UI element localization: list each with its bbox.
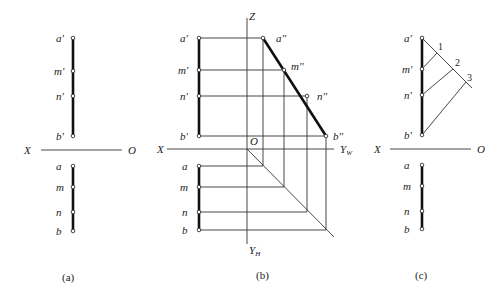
label-m: m bbox=[403, 180, 411, 192]
point-n-prime bbox=[71, 94, 75, 98]
point-b-prime bbox=[197, 134, 201, 138]
projection-diagram: X O a' m' n' b' a m n b (a) X O Z YW YH bbox=[0, 0, 504, 300]
point-m-prime bbox=[420, 67, 424, 71]
panel-b: X O Z YW YH a' m' n' b bbox=[156, 10, 353, 282]
label-n-prime: n' bbox=[56, 90, 65, 102]
label-m-prime: m' bbox=[178, 64, 189, 76]
point-n-double-prime bbox=[305, 94, 309, 98]
label-n: n bbox=[56, 206, 62, 218]
point-b-prime bbox=[71, 134, 75, 138]
label-b: b bbox=[182, 224, 188, 236]
point-b bbox=[420, 227, 424, 231]
label-b: b bbox=[404, 223, 410, 235]
point-m bbox=[71, 185, 75, 189]
point-a-double-prime bbox=[261, 36, 265, 40]
point-a-prime bbox=[420, 36, 424, 40]
label-a: a bbox=[404, 159, 410, 171]
point-b-prime bbox=[420, 133, 424, 137]
label-m: m bbox=[56, 181, 64, 193]
panel-c: X O 1 2 3 a' m' n' b' a m n b (c) bbox=[373, 32, 485, 282]
point-m-prime bbox=[197, 68, 201, 72]
label-n-prime: n' bbox=[404, 89, 413, 101]
caption-b: (b) bbox=[256, 269, 269, 282]
label-n-prime: n' bbox=[180, 90, 189, 102]
point-n bbox=[71, 210, 75, 214]
construction-line-1 bbox=[422, 53, 437, 69]
side-projection-line bbox=[263, 38, 326, 136]
axis-label-x: X bbox=[373, 143, 382, 155]
label-m-prime: m' bbox=[54, 65, 65, 77]
label-a-prime: a' bbox=[56, 32, 65, 44]
point-b-double-prime bbox=[324, 134, 328, 138]
axis-label-x: X bbox=[23, 144, 32, 156]
label-a: a bbox=[182, 160, 188, 172]
point-m bbox=[420, 184, 424, 188]
label-point-3: 3 bbox=[467, 72, 472, 83]
point-m-prime bbox=[71, 69, 75, 73]
label-b-prime: b' bbox=[404, 129, 413, 141]
caption-c: (c) bbox=[415, 269, 428, 282]
caption-a: (a) bbox=[62, 271, 75, 284]
label-b-double-prime: b'' bbox=[333, 130, 344, 142]
point-m-double-prime bbox=[282, 68, 286, 72]
label-a-double-prime: a'' bbox=[276, 32, 287, 44]
label-point-1: 1 bbox=[438, 41, 443, 52]
point-b bbox=[197, 228, 201, 232]
label-b-prime: b' bbox=[180, 130, 189, 142]
axis-label-o: O bbox=[128, 144, 136, 156]
point-a-prime bbox=[71, 36, 75, 40]
axis-label-o: O bbox=[250, 135, 258, 147]
axis-label-z: Z bbox=[249, 10, 256, 22]
point-n bbox=[197, 210, 201, 214]
label-n: n bbox=[404, 205, 410, 217]
label-m-prime: m' bbox=[402, 63, 413, 75]
point-a bbox=[197, 164, 201, 168]
label-b: b bbox=[56, 225, 62, 237]
point-m bbox=[197, 185, 201, 189]
auxiliary-line bbox=[422, 38, 472, 88]
point-a bbox=[420, 163, 424, 167]
panel-a: X O a' m' n' b' a m n b (a) bbox=[23, 32, 136, 284]
axis-label-yh: YH bbox=[249, 244, 261, 258]
point-n-prime bbox=[197, 94, 201, 98]
point-n bbox=[420, 209, 424, 213]
label-point-2: 2 bbox=[455, 57, 460, 68]
label-a-prime: a' bbox=[180, 32, 189, 44]
label-a: a bbox=[56, 160, 62, 172]
label-n-double-prime: n'' bbox=[317, 90, 328, 102]
point-a-prime bbox=[197, 36, 201, 40]
label-b-prime: b' bbox=[56, 130, 65, 142]
point-n-prime bbox=[420, 93, 424, 97]
axis-label-yw: YW bbox=[340, 143, 353, 157]
miter-line-45deg bbox=[247, 149, 334, 237]
label-m-double-prime: m'' bbox=[291, 60, 304, 72]
point-a bbox=[71, 164, 75, 168]
label-n: n bbox=[182, 206, 188, 218]
construction-line-2 bbox=[422, 69, 453, 95]
label-a-prime: a' bbox=[404, 32, 413, 44]
label-m: m bbox=[180, 181, 188, 193]
axis-label-x: X bbox=[156, 143, 165, 155]
point-b bbox=[71, 229, 75, 233]
axis-label-o: O bbox=[477, 143, 485, 155]
